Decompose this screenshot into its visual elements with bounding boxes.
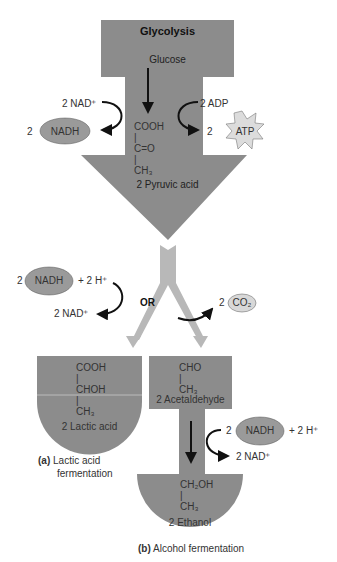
co2-coef: 2 <box>219 298 225 308</box>
s2: C=O <box>134 143 164 154</box>
s4: CH₃ <box>134 165 164 176</box>
nadh-label: NADH <box>41 127 89 137</box>
acetaldehyde-structure: CHO | CH₃ <box>179 362 201 395</box>
atp-coef: 2 <box>207 127 213 137</box>
s0: COOH <box>134 121 164 132</box>
caption-a-line1: Lactic acid <box>53 455 100 466</box>
glycolysis-title: Glycolysis <box>101 26 234 37</box>
caption-a: (a) Lactic acid fermentation <box>38 454 113 480</box>
lactic-nadh-coef: 2 <box>17 276 23 286</box>
nad-input-label: 2 NAD⁺ <box>62 99 96 109</box>
l2: CHOH <box>76 384 106 395</box>
s1: | <box>134 132 164 143</box>
or-label: OR <box>140 298 155 308</box>
lactic-structure: COOH | CHOH | CH₃ <box>76 362 106 417</box>
alcohol-h-label: + 2 H⁺ <box>289 426 318 436</box>
acetaldehyde-label: 2 Acetaldehyde <box>149 395 232 405</box>
co2-label: CO₂ <box>228 298 256 308</box>
lactic-nad-label: 2 NAD⁺ <box>54 309 88 319</box>
ethanol-structure: CH₂OH | CH₃ <box>180 479 213 512</box>
lactic-h-label: + 2 H⁺ <box>78 276 107 286</box>
alcohol-nad-label: 2 NAD⁺ <box>236 452 270 462</box>
pyruvate-structure: COOH | C=O | CH₃ <box>134 121 164 176</box>
s3: | <box>134 154 164 165</box>
branch-shape <box>132 245 205 340</box>
nadh-coef: 2 <box>27 127 33 137</box>
caption-b-text: Alcohol fermentation <box>153 543 244 554</box>
a0: CHO <box>179 362 201 373</box>
caption-a-letter: (a) <box>38 455 50 466</box>
alcohol-nadh-label: NADH <box>236 426 284 436</box>
caption-a-line2: fermentation <box>57 468 113 479</box>
a1: | <box>179 373 201 384</box>
caption-b-letter: (b) <box>138 543 151 554</box>
alcohol-nadh-coef: 2 <box>226 426 232 436</box>
caption-b: (b) Alcohol fermentation <box>138 544 244 554</box>
l3: | <box>76 395 106 406</box>
e0: CH₂OH <box>180 479 213 490</box>
e1: | <box>180 490 213 501</box>
atp-label: ATP <box>229 127 261 137</box>
lactic-product-label: 2 Lactic acid <box>37 422 142 432</box>
ethanol-label: 2 Ethanol <box>137 518 243 528</box>
glucose-label: Glucose <box>101 55 234 65</box>
adp-label: 2 ADP <box>200 99 228 109</box>
l0: COOH <box>76 362 106 373</box>
l1: | <box>76 373 106 384</box>
lactic-nadh-label: NADH <box>25 276 73 286</box>
l4: CH₃ <box>76 406 106 417</box>
e2: CH₃ <box>180 501 213 512</box>
pyruvic-label: 2 Pyruvic acid <box>101 180 234 190</box>
